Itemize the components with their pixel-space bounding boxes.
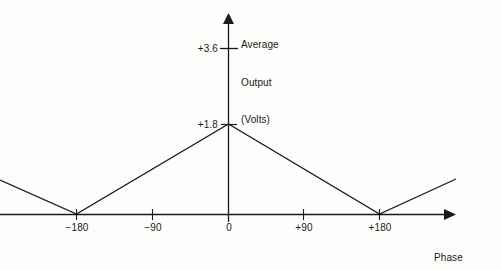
x-tick-label-minus-90: −90	[133, 222, 173, 234]
y-axis-title-line-2: Output	[241, 77, 279, 90]
phase-detector-transfer-chart: +3.6 +1.8 Average Output (Volts) −180 −9…	[0, 0, 501, 270]
x-tick-label-minus-180: −180	[56, 222, 98, 234]
x-tick-label-plus-180: +180	[359, 222, 401, 234]
y-axis-title-line-3: (Volts)	[241, 114, 279, 127]
y-tick-label-1-8: +1.8	[182, 119, 218, 131]
y-axis-title: Average Output (Volts)	[241, 14, 279, 152]
x-axis-title: Phase Difference (Degrees)	[434, 227, 480, 270]
y-axis-title-line-1: Average	[241, 39, 279, 52]
y-axis-arrowhead	[223, 13, 234, 24]
x-axis-arrowhead	[444, 209, 456, 220]
x-axis-title-line-1: Phase	[434, 252, 480, 265]
x-tick-label-plus-90: +90	[284, 222, 324, 234]
x-tick-label-zero: 0	[213, 222, 245, 234]
y-tick-label-3-6: +3.6	[182, 43, 218, 55]
